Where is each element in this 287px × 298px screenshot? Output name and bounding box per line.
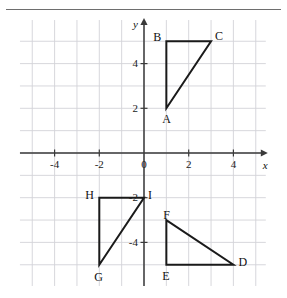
coordinate-plane-svg bbox=[0, 0, 287, 298]
vertex-label-e: E bbox=[162, 270, 169, 282]
vertex-label-f: F bbox=[163, 209, 170, 221]
y-tick-label: -4 bbox=[112, 237, 138, 248]
coordinate-plane-figure: -4-202442-2-4ABCDEFGHI x y bbox=[0, 0, 287, 298]
y-axis-label: y bbox=[133, 19, 138, 30]
y-tick-label: 4 bbox=[112, 58, 138, 69]
x-tick-label: 0 bbox=[132, 159, 156, 170]
x-axis-arrowhead bbox=[261, 149, 268, 156]
vertex-label-h: H bbox=[85, 189, 94, 201]
y-tick-label: 2 bbox=[112, 103, 138, 114]
x-tick-label: 4 bbox=[221, 159, 245, 170]
vertex-label-d: D bbox=[238, 256, 247, 268]
vertex-label-i: I bbox=[148, 189, 152, 201]
y-axis-arrowhead bbox=[140, 18, 147, 25]
x-tick-label: -2 bbox=[87, 159, 111, 170]
x-tick-label: 2 bbox=[177, 159, 201, 170]
vertex-label-g: G bbox=[94, 271, 103, 283]
vertex-label-c: C bbox=[215, 30, 223, 42]
y-tick-label: -2 bbox=[112, 192, 138, 203]
x-axis-label: x bbox=[263, 160, 268, 171]
vertex-label-b: B bbox=[153, 31, 161, 43]
axes bbox=[20, 18, 268, 286]
vertex-label-a: A bbox=[162, 113, 171, 125]
x-tick-label: -4 bbox=[43, 159, 67, 170]
